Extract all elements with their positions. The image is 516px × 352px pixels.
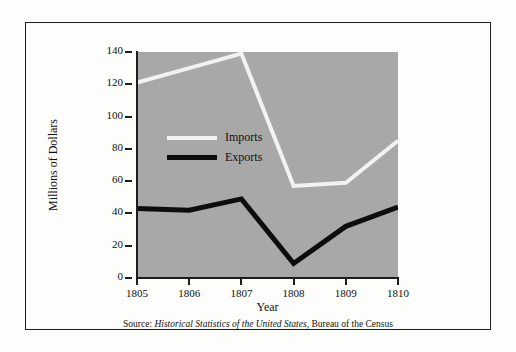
x-axis-line [136,277,399,279]
figure-root: Imports Exports 020406080100120140 18051… [0,0,516,352]
source-note: Source: Historical Statistics of the Uni… [25,319,491,329]
x-tick-label: 1807 [219,287,263,299]
series-line-exports [137,199,398,264]
x-tick-label: 1809 [324,287,368,299]
x-tick-mark [293,279,295,285]
y-tick-label: 80 [112,141,123,153]
plot-area: Imports Exports [137,52,398,278]
x-tick-label: 1806 [167,287,211,299]
x-tick-label: 1808 [272,287,316,299]
y-tick-label: 20 [112,238,123,250]
x-tick-mark [136,279,138,285]
y-tick-mark [125,148,132,150]
y-axis-label: Millions of Dollars [46,119,61,211]
x-axis-label: Year [137,300,398,315]
x-tick-label: 1810 [376,287,420,299]
x-tick-label: 1805 [115,287,159,299]
y-tick-mark [125,51,132,53]
legend-item-imports: Imports [167,128,297,148]
legend-item-exports: Exports [167,148,297,168]
y-tick-mark [125,116,132,118]
y-tick-label: 120 [107,76,124,88]
y-tick-mark [125,212,132,214]
y-tick-mark [125,277,132,279]
y-tick-label: 60 [112,173,123,185]
legend-label-exports: Exports [225,148,262,167]
source-prefix: Source: [123,319,154,329]
legend-swatch-imports [167,136,217,140]
y-axis-line [136,51,138,279]
source-suffix: , Bureau of the Census [307,319,393,329]
x-tick-mark [188,279,190,285]
y-tick-label: 140 [107,44,124,56]
legend-label-imports: Imports [225,128,262,147]
x-tick-mark [345,279,347,285]
y-tick-mark [125,83,132,85]
chart-legend: Imports Exports [167,128,297,168]
x-tick-mark [397,279,399,285]
chart-container: Imports Exports 020406080100120140 18051… [25,22,491,330]
x-tick-mark [240,279,242,285]
y-tick-label: 0 [118,270,124,282]
y-tick-label: 40 [112,205,123,217]
legend-swatch-exports [167,155,217,160]
source-title: Historical Statistics of the United Stat… [154,319,306,329]
y-tick-label: 100 [107,109,124,121]
y-tick-mark [125,245,132,247]
y-tick-mark [125,180,132,182]
